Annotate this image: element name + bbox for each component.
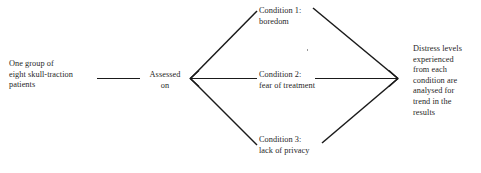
connector-branch-to-condition-1 (191, 11, 258, 79)
node-condition-2-label: Condition 2: fear of treatment (259, 70, 355, 91)
node-outcome-label: Distress levels experienced from each co… (413, 44, 481, 118)
node-condition-1-label: Condition 1: boredom (259, 6, 355, 27)
node-source-label: One group of eight skull-traction patien… (9, 59, 101, 91)
diagram-canvas: One group of eight skull-traction patien… (0, 0, 481, 173)
node-condition-3-label: Condition 3: lack of privacy (259, 135, 355, 156)
connector-branch-to-condition-3 (191, 79, 258, 146)
node-assessed-label: Assessed on (142, 70, 188, 91)
page-speck-artifact (307, 49, 308, 51)
